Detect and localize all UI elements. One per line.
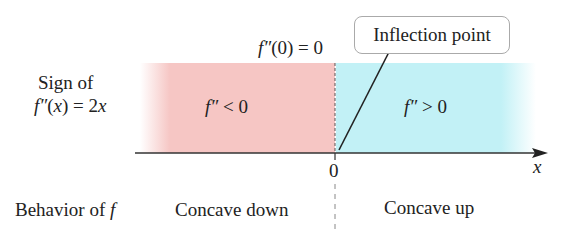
sign-label-line1: Sign of <box>38 72 93 94</box>
top-label: f″(0) = 0 <box>258 37 323 59</box>
axis-label-x: x <box>533 156 541 178</box>
sign-label-line2: f″(x) = 2x <box>34 95 106 117</box>
positive-sign-label: f″ > 0 <box>404 96 447 118</box>
concave-down-label: Concave down <box>175 199 288 221</box>
behavior-label: Behavior of f <box>15 199 115 221</box>
negative-sign-label: f″ < 0 <box>205 96 248 118</box>
concave-up-label: Concave up <box>384 197 474 219</box>
inflection-callout: Inflection point <box>354 16 510 54</box>
tick-zero: 0 <box>329 160 339 182</box>
